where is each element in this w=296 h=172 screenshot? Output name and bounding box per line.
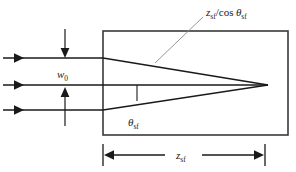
- dimension-arrowhead-left: [104, 150, 114, 160]
- converging-ray-upper: [103, 58, 268, 85]
- beam-focusing-diagram: zsf/cosθsf w0 θsf zsf: [0, 0, 296, 172]
- beam-waist-label: w0: [57, 68, 68, 83]
- figure-root: zsf/cosθsf w0 θsf zsf: [0, 0, 296, 172]
- incoming-rays-group: [3, 53, 103, 115]
- ray-bottom-arrowhead: [14, 105, 24, 115]
- distance-label-sub: sf: [180, 155, 186, 164]
- hypotenuse-label: zsf/cosθsf: [205, 6, 247, 21]
- distance-label: zsf: [175, 149, 186, 164]
- angle-label: θsf: [128, 116, 139, 131]
- beam-waist-label-sub: 0: [64, 74, 68, 83]
- waist-arrow-up-head: [61, 87, 70, 97]
- ray-middle-arrowhead: [14, 80, 24, 90]
- converging-beam-group: [103, 58, 268, 110]
- angle-label-sub: sf: [133, 122, 139, 131]
- converging-ray-lower: [103, 85, 268, 110]
- hypotenuse-label-sub2: sf: [241, 12, 247, 21]
- waist-arrow-down-head: [61, 48, 70, 58]
- hypotenuse-label-operator: /cos: [216, 6, 234, 18]
- ray-top-arrowhead: [14, 53, 24, 63]
- dimension-arrowhead-right: [254, 150, 264, 160]
- hypotenuse-leader-line: [155, 17, 203, 63]
